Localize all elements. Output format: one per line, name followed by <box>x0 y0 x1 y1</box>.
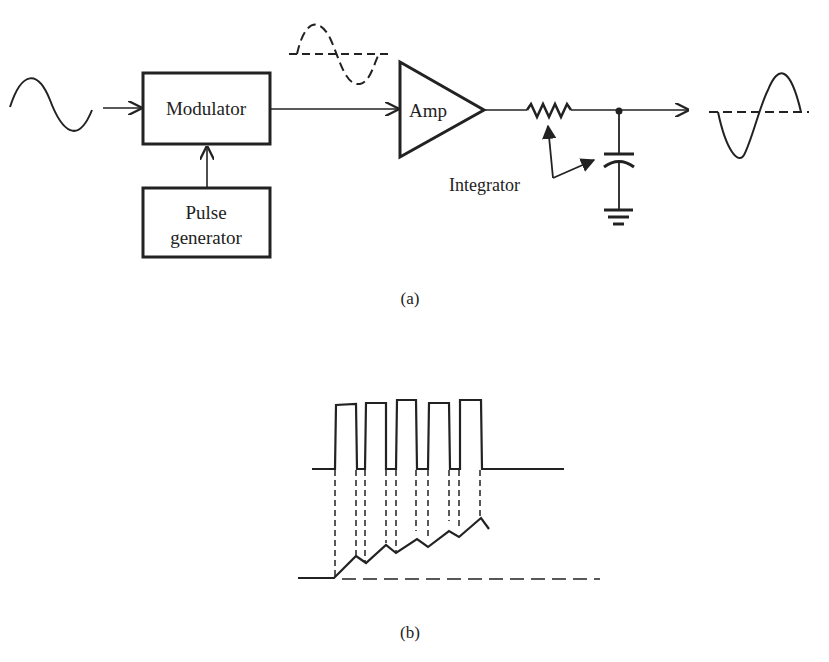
capacitor-icon <box>604 111 634 209</box>
diagram-canvas: Modulator Pulse generator Amp <box>0 0 829 662</box>
modulator-label: Modulator <box>166 98 247 119</box>
figure-a: Modulator Pulse generator Amp <box>10 25 809 308</box>
input-sine-wave-icon <box>10 78 92 131</box>
caption-b: (b) <box>400 623 420 642</box>
amplified-dashed-sine-icon <box>289 25 393 85</box>
amplifier-label: Amp <box>409 100 447 121</box>
pulse-generator-label-line1: Pulse <box>185 202 226 223</box>
integrated-ramp <box>298 518 489 578</box>
pulse-train <box>312 400 564 469</box>
figure-b: (b) <box>298 400 600 642</box>
pulse-generator-label-line2: generator <box>170 227 242 248</box>
projection-lines <box>335 470 480 576</box>
resistor-icon <box>527 104 571 117</box>
output-sine-wave-icon <box>709 73 809 158</box>
ground-icon <box>604 210 633 224</box>
caption-a: (a) <box>401 289 420 308</box>
integrator-pointer-arrows <box>548 126 594 178</box>
integrator-label: Integrator <box>449 175 520 195</box>
